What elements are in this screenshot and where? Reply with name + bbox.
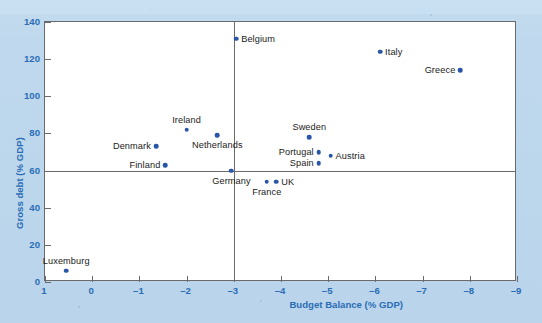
x-tick--4	[281, 276, 282, 282]
x-tick-label--1: –1	[133, 285, 144, 296]
y-tick-140	[45, 22, 51, 23]
y-tick-40	[45, 208, 51, 209]
data-label-netherlands: Netherlands	[192, 140, 243, 150]
y-tick-label-140: 140	[24, 16, 40, 27]
x-tick-label--8: –8	[463, 285, 474, 296]
y-tick-label-80: 80	[29, 127, 40, 138]
x-tick--2	[187, 276, 188, 282]
x-tick--6	[375, 276, 376, 282]
x-tick-label-1: 1	[41, 285, 46, 296]
figure-container: Gross debt (% GDP) BelgiumItalyGreeceIre…	[0, 0, 542, 323]
data-label-germany: Germany	[212, 176, 250, 186]
data-label-portugal: Portugal	[279, 147, 314, 157]
data-label-finland: Finland	[130, 160, 161, 170]
x-tick--7	[423, 276, 424, 282]
reference-line-deficit-3	[234, 22, 235, 280]
scan-speck	[430, 14, 432, 16]
x-tick-label--6: –6	[369, 285, 380, 296]
figure-caption	[0, 318, 542, 323]
data-label-austria: Austria	[336, 151, 365, 161]
data-point-austria[interactable]	[328, 153, 333, 158]
data-point-luxemburg[interactable]	[64, 269, 69, 274]
x-tick--8	[470, 276, 471, 282]
y-axis-title: Gross debt (% GDP)	[14, 137, 25, 229]
x-tick-label--2: –2	[180, 285, 191, 296]
y-tick-0	[45, 282, 51, 283]
data-label-sweden: Sweden	[292, 122, 326, 132]
data-point-netherlands[interactable]	[215, 133, 220, 138]
x-tick-0	[92, 276, 93, 282]
data-label-belgium: Belgium	[241, 34, 275, 44]
x-tick-1	[45, 276, 46, 282]
y-tick-label-0: 0	[35, 276, 40, 287]
x-tick-label--7: –7	[416, 285, 427, 296]
data-point-spain[interactable]	[316, 161, 321, 166]
y-tick-100	[45, 96, 51, 97]
y-tick-label-100: 100	[24, 90, 40, 101]
y-tick-label-40: 40	[29, 201, 40, 212]
y-tick-label-60: 60	[29, 164, 40, 175]
x-tick-label--5: –5	[322, 285, 333, 296]
data-label-denmark: Denmark	[113, 141, 151, 151]
x-tick-label-0: 0	[89, 285, 94, 296]
plot-area: BelgiumItalyGreeceIrelandNetherlandsDenm…	[44, 21, 516, 281]
data-label-luxemburg: Luxemburg	[43, 256, 90, 266]
x-tick--1	[139, 276, 140, 282]
y-tick-120	[45, 59, 51, 60]
data-label-uk: UK	[281, 177, 294, 187]
x-tick-label--3: –3	[227, 285, 238, 296]
x-axis-title: Budget Balance (% GDP)	[289, 299, 403, 310]
x-tick--5	[328, 276, 329, 282]
data-label-france: France	[252, 187, 281, 197]
y-tick-20	[45, 245, 51, 246]
y-tick-label-120: 120	[24, 53, 40, 64]
x-tick-label--4: –4	[275, 285, 286, 296]
data-point-denmark[interactable]	[154, 144, 159, 149]
y-tick-80	[45, 133, 51, 134]
x-tick--3	[234, 276, 235, 282]
scan-speck	[260, 300, 262, 302]
data-point-germany[interactable]	[229, 168, 234, 173]
data-point-belgium[interactable]	[234, 36, 239, 41]
data-point-ireland[interactable]	[184, 127, 189, 132]
reference-line-debt-60	[45, 171, 515, 172]
data-label-ireland: Ireland	[172, 115, 201, 125]
x-tick--9	[517, 276, 518, 282]
y-tick-label-20: 20	[29, 238, 40, 249]
data-point-uk[interactable]	[274, 179, 279, 184]
data-point-sweden[interactable]	[307, 135, 312, 140]
figure-top-band	[0, 0, 542, 14]
scan-speck	[78, 306, 80, 308]
data-point-italy[interactable]	[378, 49, 383, 54]
data-point-france[interactable]	[265, 179, 270, 184]
data-label-spain: Spain	[290, 158, 314, 168]
y-tick-60	[45, 171, 51, 172]
data-point-portugal[interactable]	[316, 150, 321, 155]
data-label-italy: Italy	[385, 47, 402, 57]
data-label-greece: Greece	[425, 65, 456, 75]
x-tick-label--9: –9	[511, 285, 522, 296]
data-point-greece[interactable]	[458, 68, 463, 73]
data-point-finland[interactable]	[163, 163, 168, 168]
